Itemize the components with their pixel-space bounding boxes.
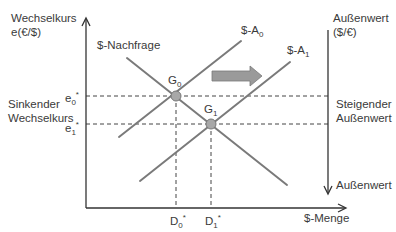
y-axis-title-line2: e(€/$) bbox=[11, 25, 77, 39]
g1-label: G1 bbox=[204, 102, 217, 121]
y-axis-title: Wechselkurs e(€/$) bbox=[11, 11, 77, 39]
left-annotation-line2: Wechselkurs bbox=[8, 111, 74, 125]
d0-label: D0* bbox=[170, 211, 186, 232]
equilibrium-point-g0 bbox=[171, 91, 181, 101]
left-annotation-line1: Sinkender bbox=[8, 97, 74, 111]
shift-right-arrow bbox=[212, 66, 262, 86]
right-axis-title-line2: ($/€) bbox=[333, 25, 389, 39]
supply-a0-label: $-A0 bbox=[241, 23, 263, 42]
right-annotation: Steigender Außenwert bbox=[336, 97, 392, 125]
d1-label: D1* bbox=[205, 211, 221, 232]
y-axis-title-line1: Wechselkurs bbox=[11, 11, 77, 25]
g0-label: G0 bbox=[168, 73, 181, 92]
x-axis-title: $-Menge bbox=[304, 211, 349, 225]
supply-a1-label: $-A1 bbox=[287, 43, 309, 62]
right-annotation-line2: Außenwert bbox=[336, 111, 392, 125]
demand-curve-label: $-Nachfrage bbox=[97, 38, 160, 52]
right-axis-bottom-label: Außenwert bbox=[336, 178, 392, 192]
left-annotation: Sinkender Wechselkurs bbox=[8, 97, 74, 125]
right-axis-title: Außenwert ($/€) bbox=[333, 11, 389, 39]
right-axis-title-line1: Außenwert bbox=[333, 11, 389, 25]
right-annotation-line1: Steigender bbox=[336, 97, 392, 111]
